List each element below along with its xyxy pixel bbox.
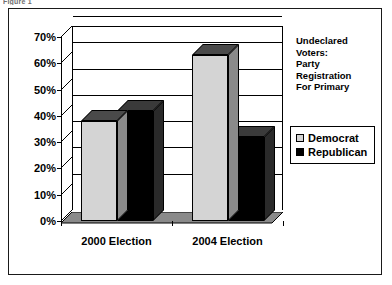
gridline — [73, 16, 282, 17]
bar-side — [264, 126, 275, 221]
bar-side — [153, 100, 164, 221]
bar-democrat-2000 — [81, 121, 117, 221]
plot-area: 0%10%20%30%40%50%60%70% 2000 Election200… — [61, 37, 283, 221]
y-tick-label: 40% — [34, 110, 56, 122]
axis-depth-connector — [61, 184, 74, 197]
y-tick-label: 60% — [34, 57, 56, 69]
bar-side — [117, 110, 128, 221]
y-tick-label: 70% — [34, 31, 56, 43]
chart-legend: Democrat Republican — [290, 126, 375, 164]
axis-depth-connector — [61, 79, 74, 92]
legend-item: Democrat — [296, 131, 367, 145]
y-tick-label: 20% — [34, 162, 56, 174]
y-tick-label: 0% — [40, 215, 56, 227]
x-axis-label: 2004 Election — [192, 235, 262, 247]
legend-label-democrat: Democrat — [308, 131, 359, 145]
legend-swatch-democrat — [296, 134, 304, 142]
chart-frame: 0%10%20%30%40%50%60%70% 2000 Election200… — [8, 8, 382, 275]
axis-depth-connector — [61, 105, 74, 118]
legend-swatch-republican — [296, 148, 304, 156]
y-axis-line — [61, 37, 62, 221]
x-tick-mark — [283, 221, 284, 226]
bar-face — [192, 55, 228, 221]
bar-side — [228, 44, 239, 221]
chart-title-line: Party — [296, 58, 351, 70]
legend-label-republican: Republican — [308, 145, 367, 159]
chart-title-line: For Primary — [296, 81, 351, 93]
chart-title-line: Registration — [296, 70, 351, 82]
y-tick-label: 50% — [34, 84, 56, 96]
x-tick-mark — [172, 221, 173, 226]
chart-title: UndeclaredVoters:PartyRegistrationFor Pr… — [296, 35, 351, 93]
bar-democrat-2004 — [192, 55, 228, 221]
x-axis-label: 2000 Election — [81, 235, 151, 247]
figure-caption: Figure 1 — [3, 0, 32, 5]
axis-depth-connector — [61, 131, 74, 144]
bar-face — [81, 121, 117, 221]
x-tick-mark — [61, 221, 62, 226]
y-tick-label: 10% — [34, 189, 56, 201]
legend-item: Republican — [296, 145, 367, 159]
chart-title-line: Undeclared — [296, 35, 351, 47]
chart-title-line: Voters: — [296, 47, 351, 59]
axis-depth-connector — [61, 52, 74, 65]
y-tick-label: 30% — [34, 136, 56, 148]
axis-depth-connector — [61, 26, 74, 39]
axis-depth-connector — [61, 157, 74, 170]
